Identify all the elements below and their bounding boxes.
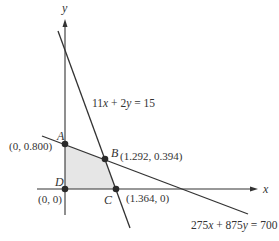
feasible-region [65,144,116,189]
equation-steep: 11x + 2y = 15 [92,97,155,110]
x-axis-arrow-icon [250,187,258,192]
vertex-b-point [102,156,109,163]
vertex-d-coord: (0, 0) [38,193,62,206]
x-axis-label: x [262,182,269,196]
vertex-c-point [113,186,120,193]
y-axis-label: y [61,1,68,15]
vertex-c-label: C [104,193,113,207]
equation-shallow: 275x + 875y = 700 [191,219,278,232]
constraint-line-steep [58,31,130,228]
vertex-a-label: A [56,129,65,143]
vertex-b-coord: (1.292, 0.394) [120,150,183,163]
vertex-d-label: D [54,175,64,189]
lp-diagram: x y 11x + 2y = 15 275x + 875y = 700 A B … [0,0,279,241]
vertex-a-coord: (0, 0.800) [9,140,52,153]
y-axis-arrow-icon [63,19,68,27]
vertex-c-coord: (1.364, 0) [126,192,169,205]
vertex-b-label: B [111,146,119,160]
